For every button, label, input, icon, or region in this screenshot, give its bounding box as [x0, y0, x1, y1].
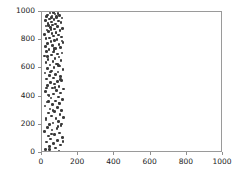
- scatter-point: [50, 16, 53, 19]
- scatter-point: [44, 72, 47, 75]
- scatter-point: [61, 27, 64, 30]
- x-axis-tick-label: 0: [39, 158, 44, 166]
- scatter-point: [54, 73, 57, 76]
- scatter-point: [47, 135, 50, 138]
- scatter-point: [48, 48, 51, 51]
- scatter-point: [60, 21, 63, 24]
- scatter-point: [56, 127, 59, 130]
- scatter-point: [49, 64, 52, 67]
- y-axis-tick-label: 0: [0, 148, 35, 156]
- scatter-point: [59, 29, 62, 32]
- scatter-point: [47, 112, 50, 115]
- scatter-point: [48, 74, 51, 77]
- scatter-point: [59, 113, 62, 116]
- scatter-point: [58, 132, 61, 135]
- scatter-point: [56, 38, 59, 41]
- scatter-point: [49, 71, 52, 74]
- y-axis-tick-label: 200: [0, 120, 35, 128]
- y-axis-tick: [38, 152, 41, 153]
- scatter-point: [46, 55, 49, 58]
- scatter-point: [56, 139, 59, 142]
- x-axis-tick-label: 1000: [212, 158, 231, 166]
- y-axis-tick: [38, 96, 41, 97]
- y-axis-tick: [38, 67, 41, 68]
- scatter-point: [60, 59, 63, 62]
- scatter-point: [52, 109, 55, 112]
- scatter-point: [43, 130, 46, 133]
- x-axis-tick: [77, 152, 78, 155]
- scatter-points-layer: [42, 12, 221, 151]
- scatter-point: [54, 57, 57, 60]
- scatter-point: [53, 133, 56, 136]
- scatter-point: [56, 106, 59, 109]
- scatter-point: [49, 138, 52, 141]
- scatter-point: [45, 61, 48, 64]
- y-axis-tick: [38, 124, 41, 125]
- scatter-point: [53, 28, 56, 31]
- scatter-point: [56, 80, 59, 83]
- x-axis-tick-label: 200: [70, 158, 84, 166]
- scatter-point: [52, 93, 55, 96]
- scatter-point: [53, 39, 56, 42]
- scatter-point: [62, 140, 65, 143]
- scatter-point: [61, 17, 64, 20]
- scatter-point: [57, 71, 60, 74]
- scatter-point: [51, 24, 54, 27]
- scatter-point: [47, 58, 50, 61]
- scatter-point: [59, 144, 62, 147]
- scatter-point: [57, 96, 60, 99]
- x-axis-tick: [113, 152, 114, 155]
- scatter-point: [44, 19, 47, 22]
- scatter-point: [54, 147, 57, 150]
- scatter-point: [61, 52, 64, 55]
- scatter-point: [47, 100, 50, 103]
- x-axis-tick-label: 400: [106, 158, 120, 166]
- y-axis-tick-label: 600: [0, 64, 35, 72]
- plot-area-frame: [41, 11, 222, 152]
- scatter-point: [48, 148, 51, 151]
- scatter-point: [57, 64, 60, 67]
- scatter-point: [50, 40, 53, 43]
- scatter-point: [49, 12, 52, 14]
- scatter-point: [45, 37, 48, 40]
- scatter-point: [61, 136, 64, 139]
- scatter-point: [60, 36, 63, 39]
- scatter-point: [54, 100, 57, 103]
- scatter-point: [50, 115, 53, 118]
- scatter-point: [62, 116, 65, 119]
- scatter-point: [52, 77, 55, 80]
- scatter-point: [55, 89, 58, 92]
- scatter-point: [60, 109, 63, 112]
- scatter-point: [54, 86, 57, 89]
- scatter-point: [62, 88, 65, 91]
- scatter-point: [46, 67, 49, 70]
- scatter-point: [56, 25, 59, 28]
- scatter-point: [59, 78, 62, 81]
- y-axis-tick-label: 800: [0, 35, 35, 43]
- scatter-point: [52, 35, 55, 38]
- y-axis-tick: [38, 39, 41, 40]
- scatter-point: [52, 142, 55, 145]
- scatter-point: [52, 122, 55, 125]
- scatter-point: [44, 105, 47, 108]
- scatter-point: [50, 21, 53, 24]
- scatter-point: [57, 125, 60, 128]
- scatter-point: [52, 51, 55, 54]
- x-axis-tick-label: 800: [179, 158, 193, 166]
- scatter-point: [48, 37, 51, 40]
- scatter-point: [49, 81, 52, 84]
- x-axis-tick-label: 600: [142, 158, 156, 166]
- scatter-point: [44, 45, 47, 48]
- scatter-point: [43, 33, 46, 36]
- scatter-point: [50, 28, 53, 31]
- scatter-point: [46, 126, 49, 129]
- scatter-point: [62, 68, 65, 71]
- y-axis-tick-label: 1000: [0, 7, 35, 15]
- scatter-point: [55, 15, 58, 18]
- x-axis-tick: [41, 152, 42, 155]
- scatter-point: [51, 129, 54, 132]
- scatter-point: [45, 117, 48, 120]
- scatter-point: [53, 18, 56, 21]
- scatter-point: [59, 46, 62, 49]
- scatter-point: [45, 78, 48, 81]
